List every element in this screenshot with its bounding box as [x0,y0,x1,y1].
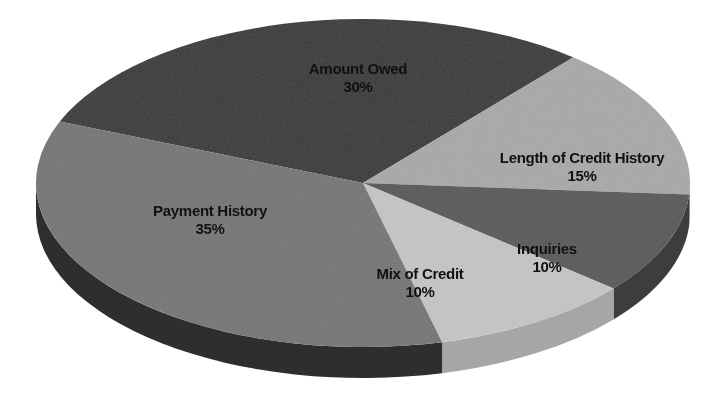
slice-percent: 30% [309,78,407,96]
slice-percent: 15% [500,167,664,185]
slice-percent: 10% [377,283,464,301]
slice-name: Inquiries [517,240,577,258]
slice-label-length-of-credit-history: Length of Credit History 15% [500,149,664,185]
slice-label-mix-of-credit: Mix of Credit 10% [377,265,464,301]
slice-label-amount-owed: Amount Owed 30% [309,60,407,96]
slice-name: Amount Owed [309,60,407,78]
slice-name: Payment History [153,202,267,220]
slice-percent: 10% [517,258,577,276]
slice-name: Length of Credit History [500,149,664,167]
slice-percent: 35% [153,220,267,238]
slice-label-inquiries: Inquiries 10% [517,240,577,276]
slice-label-payment-history: Payment History 35% [153,202,267,238]
slice-name: Mix of Credit [377,265,464,283]
